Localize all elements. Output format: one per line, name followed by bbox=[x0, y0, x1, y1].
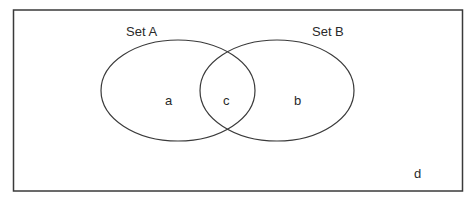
universe-rectangle bbox=[14, 10, 463, 191]
region-a-label: a bbox=[165, 93, 173, 108]
intersection-label: c bbox=[223, 93, 230, 108]
set-b-ellipse bbox=[200, 40, 354, 141]
universe-label: d bbox=[414, 166, 421, 181]
region-b-label: b bbox=[294, 93, 301, 108]
set-b-title: Set B bbox=[312, 24, 344, 39]
set-a-ellipse bbox=[101, 40, 255, 141]
set-a-title: Set A bbox=[126, 24, 157, 39]
venn-diagram: Set A Set B a c b d bbox=[0, 0, 472, 203]
